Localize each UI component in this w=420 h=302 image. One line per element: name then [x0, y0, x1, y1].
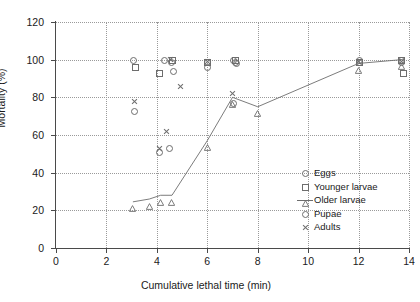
x-axis-tick-label: 2: [91, 256, 121, 266]
legend-item-label: Older larvae: [314, 193, 366, 207]
x-axis-tick-label: 10: [293, 256, 323, 266]
x-axis-tick: [359, 248, 360, 253]
legend-item-label: Pupae: [314, 207, 341, 221]
marker-circle-icon: [302, 211, 309, 218]
gridline-vertical: [409, 22, 410, 248]
y-axis-tick-label: 60: [14, 130, 44, 140]
y-axis-tick-label: 40: [14, 168, 44, 178]
x-axis-tick-label: 14: [394, 256, 420, 266]
y-axis-tick-label: 80: [14, 92, 44, 102]
x-axis-tick-label: 12: [344, 256, 374, 266]
legend-item[interactable]: Younger larvae: [296, 180, 406, 194]
x-axis-tick-label: 4: [142, 256, 172, 266]
x-axis-tick: [207, 248, 208, 253]
legend-item-label: Younger larvae: [314, 180, 378, 194]
x-axis-line: [55, 248, 410, 249]
x-axis-tick: [258, 248, 259, 253]
x-axis-tick: [56, 248, 57, 253]
chart-legend: EggsYounger larvaeOlder larvaePupaeAdult…: [296, 166, 406, 234]
x-axis-tick-label: 6: [192, 256, 222, 266]
y-axis-tick-label: 0: [14, 243, 44, 253]
x-axis-title: Cumulative lethal time (min): [0, 279, 412, 291]
x-axis-tick: [409, 248, 410, 253]
legend-line-segment: [297, 200, 313, 201]
legend-marker: [296, 220, 314, 234]
x-axis-tick: [157, 248, 158, 253]
x-axis-tick-label: 8: [243, 256, 273, 266]
legend-item-label: Eggs: [314, 166, 336, 180]
x-axis-tick: [308, 248, 309, 253]
legend-marker: [296, 166, 314, 180]
marker-circle-icon: [302, 170, 309, 177]
marker-cross-icon: [302, 224, 309, 231]
legend-marker: [296, 207, 314, 221]
y-axis-title: Mortality (%): [0, 69, 7, 128]
y-axis-tick-label: 120: [14, 17, 44, 27]
legend-item-label: Adults: [314, 220, 340, 234]
legend-marker: [296, 180, 314, 194]
legend-item[interactable]: Older larvae: [296, 193, 406, 207]
legend-item[interactable]: Eggs: [296, 166, 406, 180]
marker-square-icon: [302, 184, 309, 191]
x-axis-tick: [106, 248, 107, 253]
legend-marker: [296, 193, 314, 207]
legend-item[interactable]: Adults: [296, 220, 406, 234]
legend-item[interactable]: Pupae: [296, 207, 406, 221]
y-axis-tick-label: 100: [14, 55, 44, 65]
x-axis-tick-label: 0: [41, 256, 71, 266]
y-axis-tick-label: 20: [14, 205, 44, 215]
